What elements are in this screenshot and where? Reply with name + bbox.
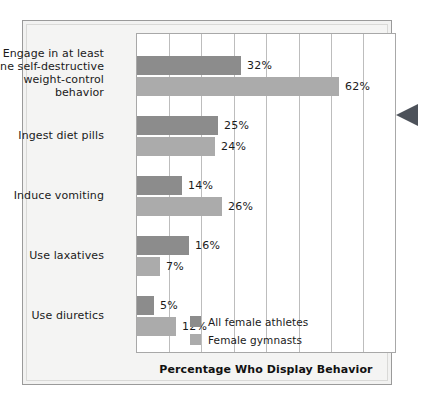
bar-gymnasts[interactable] [137, 257, 160, 276]
category-label-self-destructive: Engage in at least one self-destructive … [0, 47, 104, 99]
plot-area: 32% 62% 25% 24% 14% 26% 16% [136, 33, 396, 353]
bar-value-label: 7% [166, 257, 184, 276]
category-label-use-diuretics: Use diuretics [0, 309, 104, 322]
bar-athletes[interactable] [137, 116, 218, 135]
category-label-line: Engage in at least [0, 47, 104, 60]
bar-value-label: 62% [345, 77, 370, 96]
category-label-diet-pills: Ingest diet pills [0, 129, 104, 142]
legend-swatch-icon [190, 334, 201, 345]
category-label-use-laxatives: Use laxatives [0, 249, 104, 262]
legend-label: All female athletes [208, 316, 308, 328]
bar-gymnasts[interactable] [137, 77, 339, 96]
left-pointing-triangle-icon [396, 104, 418, 126]
category-label-induce-vomiting: Induce vomiting [0, 189, 104, 202]
bar-value-label: 16% [195, 236, 220, 255]
bar-gymnasts[interactable] [137, 317, 176, 336]
legend-item-female-gymnasts[interactable]: Female gymnasts [190, 331, 308, 348]
bar-value-label: 25% [224, 116, 249, 135]
bar-value-label: 14% [188, 176, 213, 195]
legend-label: Female gymnasts [208, 334, 302, 346]
legend-item-all-female-athletes[interactable]: All female athletes [190, 313, 308, 330]
category-label-line: behavior [0, 86, 104, 99]
bar-value-label: 24% [221, 137, 246, 156]
x-axis-title: Percentage Who Display Behavior [136, 363, 396, 376]
chart-legend: All female athletes Female gymnasts [190, 313, 308, 349]
bar-athletes[interactable] [137, 296, 154, 315]
category-label-line: weight-control [0, 73, 104, 86]
bar-athletes[interactable] [137, 56, 241, 75]
bar-athletes[interactable] [137, 176, 182, 195]
bar-athletes[interactable] [137, 236, 189, 255]
bar-value-label: 26% [228, 197, 253, 216]
category-label-line: one self-destructive [0, 60, 104, 73]
bar-gymnasts[interactable] [137, 197, 222, 216]
bar-value-label: 5% [160, 296, 178, 315]
legend-swatch-icon [190, 316, 201, 327]
chart-figure-inner-frame: 32% 62% 25% 24% 14% 26% 16% [26, 24, 388, 381]
bar-gymnasts[interactable] [137, 137, 215, 156]
chart-figure-frame: 32% 62% 25% 24% 14% 26% 16% [22, 20, 392, 385]
bar-value-label: 32% [247, 56, 272, 75]
